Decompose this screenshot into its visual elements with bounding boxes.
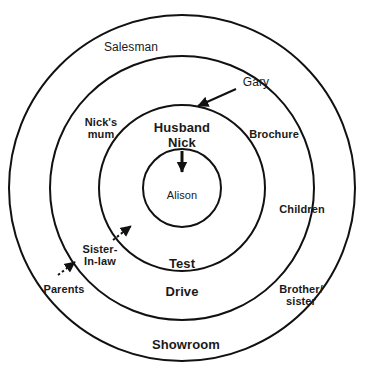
label-salesman: Salesman [104, 41, 158, 54]
parents-arrow [58, 262, 75, 275]
gary-arrow [198, 89, 236, 106]
label-test: Test [169, 257, 195, 272]
label-drive: Drive [165, 285, 198, 300]
label-gary: Gary [243, 76, 269, 89]
label-parents: Parents [43, 283, 84, 295]
label-children: Children [279, 203, 324, 215]
label-husband-nick: Husband Nick [154, 121, 210, 150]
label-sister-in-law: Sister- In-law [83, 243, 118, 268]
label-nicks-mum: Nick's mum [85, 116, 118, 141]
label-showroom: Showroom [152, 338, 220, 353]
label-brother-sister: Brother/ sister [279, 283, 323, 308]
label-brochure: Brochure [249, 128, 299, 140]
label-alison: Alison [167, 189, 198, 201]
concentric-circle-diagram: Salesman Gary Nick's mum Brochure Husban… [0, 0, 367, 377]
